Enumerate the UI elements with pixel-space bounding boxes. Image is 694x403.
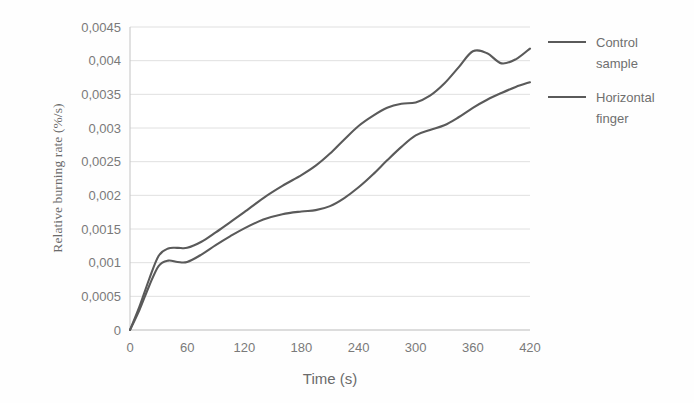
legend-label-line1: Horizontal bbox=[596, 90, 655, 105]
y-tick-label: 0,0005 bbox=[81, 289, 121, 304]
y-tick-label: 0,0015 bbox=[81, 222, 121, 237]
x-tick-label: 60 bbox=[180, 340, 194, 355]
x-tick-label: 180 bbox=[291, 340, 313, 355]
x-tick-label: 240 bbox=[348, 340, 370, 355]
y-tick-label: 0,0045 bbox=[81, 20, 121, 35]
x-tick-label: 300 bbox=[405, 340, 427, 355]
y-axis-tick-labels: 00,00050,0010,00150,0020,00250,0030,0035… bbox=[81, 20, 121, 338]
y-tick-label: 0 bbox=[114, 323, 121, 338]
line-chart-canvas: 00,00050,0010,00150,0020,00250,0030,0035… bbox=[0, 0, 694, 403]
x-tick-label: 420 bbox=[519, 340, 541, 355]
legend-label-line2: finger bbox=[596, 111, 629, 126]
x-tick-label: 120 bbox=[233, 340, 255, 355]
legend-entry[interactable]: Horizontalfinger bbox=[548, 90, 655, 126]
legend-entry[interactable]: Controlsample bbox=[548, 35, 638, 71]
legend-label-line1: Control bbox=[596, 35, 638, 50]
x-tick-label: 0 bbox=[126, 340, 133, 355]
x-axis-title: Time (s) bbox=[303, 370, 357, 387]
y-axis-title: Relative burning rate (%/s) bbox=[50, 103, 65, 252]
plot-area-background bbox=[130, 27, 530, 330]
y-tick-label: 0,001 bbox=[88, 255, 121, 270]
y-tick-label: 0,004 bbox=[88, 53, 121, 68]
legend-label-line2: sample bbox=[596, 56, 638, 71]
chart-legend: ControlsampleHorizontalfinger bbox=[548, 35, 655, 126]
x-tick-label: 360 bbox=[462, 340, 484, 355]
y-tick-label: 0,0025 bbox=[81, 154, 121, 169]
x-axis-tick-labels: 060120180240300360420 bbox=[126, 340, 540, 355]
chart-figure: 00,00050,0010,00150,0020,00250,0030,0035… bbox=[0, 0, 694, 403]
y-tick-label: 0,003 bbox=[88, 121, 121, 136]
y-tick-label: 0,002 bbox=[88, 188, 121, 203]
y-tick-label: 0,0035 bbox=[81, 87, 121, 102]
